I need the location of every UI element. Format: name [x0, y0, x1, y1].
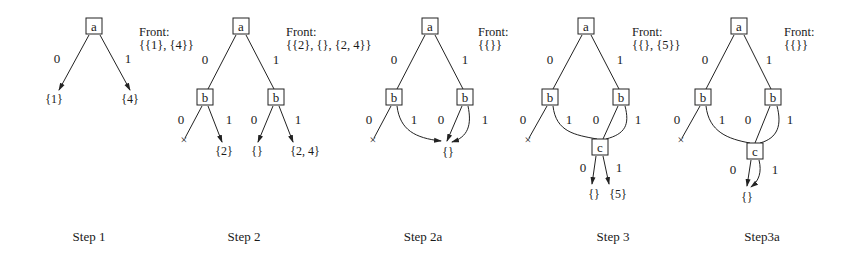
edge-br-0 [447, 106, 462, 141]
leaf-set: {} [588, 187, 600, 201]
edge-label-1: 1 [125, 51, 132, 66]
node-a-label: a [736, 19, 742, 34]
leaf-set: {2, 4} [290, 144, 320, 158]
front-value: {{}} [784, 38, 808, 52]
bdd-construction-diagram: a 0 1 {1} {4} Front: {{1}, {4}} Step 1 a… [0, 0, 857, 264]
front-value: {{1}, {4}} [139, 38, 194, 52]
edge-label-0: 0 [547, 52, 554, 67]
edge-a-0 [397, 35, 425, 89]
step-caption: Step 1 [73, 229, 106, 244]
edge-label-0: 0 [391, 52, 398, 67]
node-a-label: a [583, 19, 589, 34]
edge-label-0: 0 [730, 162, 737, 177]
edge-a-0 [208, 35, 236, 89]
leaf-set: {} [741, 190, 753, 204]
node-b-left-label: b [202, 90, 209, 105]
edge-bl-1 [553, 106, 597, 139]
leaf-set: {1} [45, 92, 63, 106]
leaf-set: {2} [215, 144, 233, 158]
edge-br-0 [603, 106, 618, 139]
node-b-left-label: b [391, 90, 398, 105]
front-title: Front: [286, 25, 317, 39]
leaf-set: {5} [609, 187, 627, 201]
edge-label-1: 1 [411, 112, 418, 127]
edge-c-0 [592, 156, 596, 184]
front-title: Front: [478, 25, 509, 39]
edge-br-1 [606, 106, 627, 139]
leaf-set: {} [442, 145, 454, 159]
edge-a-0 [553, 35, 582, 89]
node-a-label: a [238, 19, 244, 34]
edge-br-0 [755, 106, 770, 143]
leaf-set: {} [251, 144, 263, 158]
edge-label-1: 1 [635, 112, 642, 127]
node-b-right-label: b [273, 90, 280, 105]
edge-bl-0 [529, 106, 547, 138]
terminal-cross: × [525, 133, 532, 147]
edge-label-0: 0 [580, 160, 587, 175]
edge-label-0: 0 [54, 51, 61, 66]
step-2: a b b 0 1 0 1 0 1 × {2} {} {2, 4} Front:… [178, 18, 372, 244]
edge-br-1 [279, 106, 293, 142]
step-caption: Step 2 [228, 229, 261, 244]
edge-label-1: 1 [295, 112, 302, 127]
edge-label-0: 0 [520, 112, 527, 127]
step-caption: Step 3 [597, 229, 630, 244]
edge-a-1 [435, 35, 463, 89]
step-3a: a b b c 0 1 0 1 0 1 0 1 × {} Front: {{}}… [674, 18, 815, 244]
front-value: {{}, {5}} [632, 38, 681, 52]
edge-label-1: 1 [617, 52, 624, 67]
edge-bl-0 [682, 106, 700, 138]
node-a-label: a [427, 19, 433, 34]
node-b-left-label: b [547, 90, 554, 105]
node-b-right-label: b [618, 90, 625, 105]
step-1: a 0 1 {1} {4} Front: {{1}, {4}} Step 1 [45, 18, 194, 244]
step-caption: Step 2a [404, 229, 443, 244]
front-title: Front: [632, 25, 663, 39]
edge-label-0: 0 [366, 112, 373, 127]
edge-label-1: 1 [566, 112, 573, 127]
edge-label-0: 0 [745, 112, 752, 127]
edge-bl-0 [374, 106, 391, 138]
terminal-cross: × [181, 133, 188, 147]
node-c-label: c [597, 140, 603, 155]
terminal-cross: × [370, 133, 377, 147]
node-b-right-label: b [462, 90, 469, 105]
edge-label-1: 1 [226, 112, 233, 127]
edge-label-0: 0 [593, 112, 600, 127]
edge-bl-1 [706, 106, 750, 143]
terminal-cross: × [678, 133, 685, 147]
edge-label-1: 1 [616, 160, 623, 175]
edge-a-1 [246, 35, 274, 89]
front-value: {{}} [478, 38, 502, 52]
front-title: Front: [139, 25, 170, 39]
node-c-label: c [752, 144, 758, 159]
edge-label-0: 0 [438, 112, 445, 127]
edge-a-0 [59, 35, 89, 90]
node-b-right-label: b [770, 90, 777, 105]
step-caption: Step3a [744, 229, 780, 244]
node-b-left-label: b [700, 90, 707, 105]
edge-c-0 [747, 160, 751, 186]
edge-a-1 [591, 35, 619, 89]
edge-label-0: 0 [202, 52, 209, 67]
leaf-set: {4} [121, 92, 139, 106]
edge-label-0: 0 [251, 112, 258, 127]
edge-bl-1 [208, 106, 222, 142]
node-a-label: a [91, 19, 97, 34]
edge-c-1 [751, 160, 760, 187]
edge-label-1: 1 [787, 112, 794, 127]
front-value: {{2}, {}, {2, 4}} [286, 38, 372, 52]
edge-label-0: 0 [674, 112, 681, 127]
step-3: a b b c 0 1 0 1 0 1 0 1 × {} {5} Front: … [520, 18, 681, 244]
edge-br-0 [258, 106, 273, 142]
edge-label-1: 1 [719, 112, 726, 127]
front-title: Front: [784, 25, 815, 39]
edge-label-1: 1 [482, 112, 489, 127]
edge-a-0 [706, 35, 734, 89]
edge-bl-1 [397, 106, 441, 141]
edge-label-1: 1 [462, 52, 469, 67]
edge-c-1 [603, 156, 609, 184]
edge-label-1: 1 [766, 52, 773, 67]
edge-label-1: 1 [772, 162, 779, 177]
